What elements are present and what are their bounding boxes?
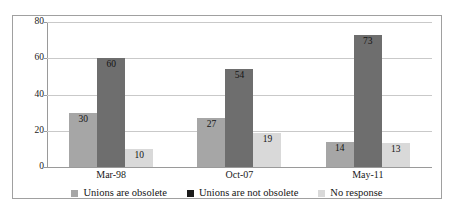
x-axis-label-mar-98: Mar-98 xyxy=(47,170,175,180)
bar[interactable]: 54 xyxy=(225,69,253,167)
legend-label: Unions are obsolete xyxy=(83,188,166,199)
bar[interactable]: 60 xyxy=(97,58,125,167)
x-axis-category-labels: Mar-98Oct-07May-11 xyxy=(47,170,432,184)
bar-value-label: 30 xyxy=(69,115,97,125)
bar[interactable]: 27 xyxy=(197,118,225,167)
legend-swatch-icon xyxy=(318,190,325,197)
y-axis-tick-labels: 020406080 xyxy=(0,22,44,167)
bar[interactable]: 30 xyxy=(69,113,97,167)
bar-value-label: 54 xyxy=(225,71,253,81)
bar-group-oct-07: 275419 xyxy=(175,22,303,167)
bar-value-label: 19 xyxy=(253,135,281,145)
y-tick-label-80: 80 xyxy=(4,17,44,27)
gridline-0 xyxy=(47,167,432,168)
bar-value-label: 10 xyxy=(125,151,153,161)
bar[interactable]: 73 xyxy=(354,35,382,167)
bar[interactable]: 14 xyxy=(326,142,354,167)
x-axis-label-may-11: May-11 xyxy=(304,170,432,180)
legend-swatch-icon xyxy=(187,190,194,197)
bar[interactable]: 10 xyxy=(125,149,153,167)
y-tick-label-60: 60 xyxy=(4,53,44,63)
bar-value-label: 14 xyxy=(326,144,354,154)
bar-group-mar-98: 306010 xyxy=(47,22,175,167)
bar-value-label: 60 xyxy=(97,60,125,70)
legend-label: No response xyxy=(330,188,382,199)
legend-label: Unions are not obsolete xyxy=(199,188,298,199)
y-tick-label-40: 40 xyxy=(4,90,44,100)
bar-chart-figure: 020406080 306010275419147313 Mar-98Oct-0… xyxy=(0,0,456,213)
bar-value-label: 73 xyxy=(354,37,382,47)
legend-swatch-icon xyxy=(71,190,78,197)
legend-item-1[interactable]: Unions are not obsolete xyxy=(187,188,298,199)
bar-group-may-11: 147313 xyxy=(304,22,432,167)
x-axis-label-oct-07: Oct-07 xyxy=(175,170,303,180)
bar[interactable]: 13 xyxy=(382,143,410,167)
plot-area: 306010275419147313 xyxy=(47,22,432,167)
bar-value-label: 27 xyxy=(197,120,225,130)
bar[interactable]: 19 xyxy=(253,133,281,167)
bar-value-label: 13 xyxy=(382,145,410,155)
y-tick-label-20: 20 xyxy=(4,126,44,136)
y-tick-label-0: 0 xyxy=(4,162,44,172)
legend-item-2[interactable]: No response xyxy=(318,188,382,199)
chart-legend: Unions are obsoleteUnions are not obsole… xyxy=(12,185,442,201)
legend-item-0[interactable]: Unions are obsolete xyxy=(71,188,166,199)
